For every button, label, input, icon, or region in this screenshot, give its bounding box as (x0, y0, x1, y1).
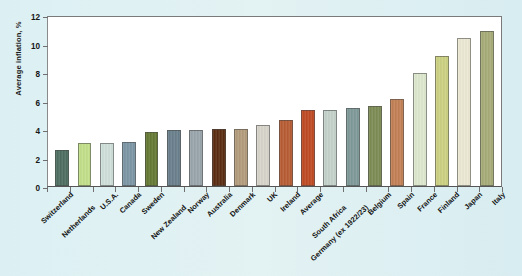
bar (279, 120, 293, 186)
bar (480, 31, 494, 186)
x-axis-label: France (415, 190, 439, 214)
chart-figure: Average inflation, % 024681012 Switzerla… (0, 0, 522, 276)
y-axis-tick (43, 160, 48, 161)
bar (301, 110, 315, 186)
bar (234, 129, 248, 186)
bar (189, 130, 203, 186)
bar (78, 143, 92, 186)
y-axis-tick (43, 131, 48, 132)
bar (167, 130, 181, 186)
y-axis-tick (43, 74, 48, 75)
x-axis-label: Netherlands (60, 203, 97, 240)
x-axis-labels: SwitzerlandNetherlandsU.S.A.CanadaSweden… (47, 190, 502, 276)
x-axis-label: Spain (395, 190, 416, 211)
bar (346, 108, 360, 186)
x-axis-label: Italy (490, 190, 507, 207)
x-axis-label: New Zealand (149, 203, 188, 241)
bar (145, 132, 159, 186)
bar-slot (185, 17, 207, 186)
bar-slot (319, 17, 341, 186)
bar-series (48, 17, 501, 186)
bar (100, 143, 114, 186)
bar-slot (252, 17, 274, 186)
bar (55, 150, 69, 186)
y-axis-title: Average inflation, % (14, 0, 23, 129)
bar (368, 106, 382, 186)
plot-area: 024681012 (47, 16, 502, 187)
bar-slot (409, 17, 431, 186)
bar (212, 129, 226, 186)
y-axis-tick-label: 6 (35, 98, 40, 107)
x-axis-label: Belgium (366, 190, 393, 217)
bar-slot (51, 17, 73, 186)
bar-slot (297, 17, 319, 186)
bar-slot (386, 17, 408, 186)
y-axis-tick-label: 2 (35, 155, 40, 164)
x-axis-label: Canada (117, 190, 143, 215)
bar-slot (274, 17, 296, 186)
bar (457, 38, 471, 186)
x-axis-label: UK (266, 190, 280, 204)
bar-slot (163, 17, 185, 186)
bar (413, 73, 427, 186)
y-axis-tick-label: 10 (31, 41, 40, 50)
bar-slot (230, 17, 252, 186)
bar-slot (140, 17, 162, 186)
bar (435, 56, 449, 186)
x-axis-label: Switzerland (39, 190, 75, 225)
x-axis-label: Japan (463, 190, 485, 211)
bar-slot (476, 17, 498, 186)
y-axis-tick-label: 4 (35, 127, 40, 136)
bar (256, 125, 270, 186)
bar-slot (96, 17, 118, 186)
x-axis-label: Average (298, 190, 325, 217)
bar-slot (118, 17, 140, 186)
y-axis-tick-label: 0 (35, 184, 40, 193)
y-axis-tick (43, 46, 48, 47)
y-axis-tick-label: 8 (35, 70, 40, 79)
bar-slot (364, 17, 386, 186)
bar (122, 142, 136, 186)
x-axis-label: Finland (436, 190, 461, 215)
bar-slot (453, 17, 475, 186)
bar-slot (341, 17, 363, 186)
bar-slot (207, 17, 229, 186)
bar-slot (73, 17, 95, 186)
y-axis-tick (43, 103, 48, 104)
y-axis-tick-label: 12 (31, 13, 40, 22)
x-axis-label: Sweden (139, 190, 166, 216)
bar (323, 110, 337, 186)
bar-slot (431, 17, 453, 186)
y-axis-tick (43, 17, 48, 18)
bar (390, 99, 404, 186)
